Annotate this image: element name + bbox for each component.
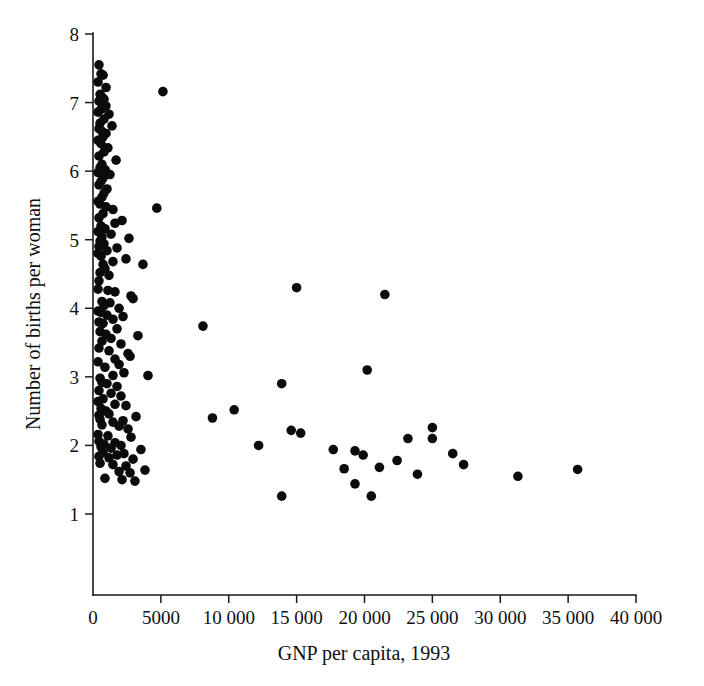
data-point <box>125 351 135 361</box>
data-point <box>118 312 128 322</box>
data-points-layer <box>93 60 582 501</box>
data-point <box>362 365 372 375</box>
data-point <box>124 234 134 244</box>
axis-lines <box>93 33 636 595</box>
data-point <box>104 271 114 281</box>
y-tick-label: 7 <box>70 93 80 114</box>
data-point <box>380 290 390 300</box>
y-axis-title: Number of births per woman <box>22 198 45 430</box>
y-tick-label: 1 <box>70 504 80 525</box>
data-point <box>94 386 104 396</box>
x-tick-label: 0 <box>88 607 98 628</box>
x-tick-label: 25 000 <box>406 607 458 628</box>
data-point <box>286 426 296 436</box>
x-tick-label: 40 000 <box>610 607 662 628</box>
data-point <box>392 456 402 466</box>
data-point <box>94 276 104 286</box>
data-point <box>116 339 126 349</box>
y-tick-label: 4 <box>70 298 80 319</box>
data-point <box>292 283 302 293</box>
data-point <box>119 368 129 378</box>
data-point <box>97 420 107 430</box>
data-point <box>112 324 122 334</box>
data-point <box>208 413 218 423</box>
data-point <box>123 424 133 434</box>
data-point <box>296 428 306 438</box>
data-point <box>104 409 114 419</box>
x-axis-title: GNP per capita, 1993 <box>278 642 451 665</box>
data-point <box>358 450 368 460</box>
data-point <box>229 405 239 415</box>
data-point <box>158 87 168 97</box>
data-point <box>277 379 287 389</box>
data-point <box>116 391 126 401</box>
data-point <box>130 476 140 486</box>
data-point <box>143 371 153 381</box>
y-axis-ticks: 12345678 <box>70 24 94 525</box>
data-point <box>573 465 583 475</box>
data-point <box>121 254 131 264</box>
data-point <box>350 479 360 489</box>
x-tick-label: 35 000 <box>542 607 594 628</box>
data-point <box>95 458 105 468</box>
data-point <box>428 434 438 444</box>
data-point <box>138 260 148 270</box>
y-tick-label: 3 <box>70 367 80 388</box>
data-point <box>133 331 143 341</box>
data-point <box>126 432 136 442</box>
x-axis-ticks: 0500010 00015 00020 00025 00030 00035 00… <box>88 595 662 628</box>
data-point <box>106 389 116 399</box>
y-tick-label: 6 <box>70 161 80 182</box>
data-point <box>106 229 116 239</box>
data-point <box>93 77 103 87</box>
data-point <box>513 471 523 481</box>
data-point <box>328 445 338 455</box>
data-point <box>110 218 120 228</box>
data-point <box>110 399 120 409</box>
x-tick-label: 5000 <box>142 607 180 628</box>
data-point <box>366 491 376 501</box>
chart-canvas: 12345678 0500010 00015 00020 00025 00030… <box>0 0 704 686</box>
data-point <box>93 284 103 294</box>
x-tick-label: 20 000 <box>338 607 390 628</box>
data-point <box>96 251 106 261</box>
data-point <box>100 362 110 372</box>
data-point <box>403 434 413 444</box>
y-tick-label: 2 <box>70 435 80 456</box>
data-point <box>94 60 104 70</box>
x-tick-label: 15 000 <box>271 607 323 628</box>
data-point <box>198 321 208 331</box>
data-point <box>108 205 118 215</box>
x-tick-label: 30 000 <box>474 607 526 628</box>
data-point <box>98 319 108 329</box>
x-tick-label: 10 000 <box>203 607 255 628</box>
data-point <box>104 346 114 356</box>
data-point <box>128 454 138 464</box>
data-point <box>117 475 127 485</box>
data-point <box>111 155 121 165</box>
data-point <box>114 421 124 431</box>
data-point <box>350 446 360 456</box>
data-point <box>108 314 118 324</box>
data-point <box>94 343 104 353</box>
data-point <box>428 423 438 433</box>
data-point <box>140 465 150 475</box>
data-point <box>106 334 116 344</box>
data-point <box>102 379 112 389</box>
data-point <box>116 441 126 451</box>
data-point <box>125 468 135 478</box>
data-point <box>100 474 110 484</box>
data-point <box>136 445 146 455</box>
data-point <box>254 441 264 451</box>
data-point <box>121 401 131 411</box>
data-point <box>277 491 287 501</box>
y-tick-label: 8 <box>70 24 80 45</box>
data-point <box>459 460 469 470</box>
scatter-plot-figure: 12345678 0500010 00015 00020 00025 00030… <box>0 0 704 686</box>
data-point <box>413 469 423 479</box>
data-point <box>114 467 124 477</box>
data-point <box>131 412 141 422</box>
data-point <box>108 371 118 381</box>
y-tick-label: 5 <box>70 230 80 251</box>
data-point <box>103 431 113 441</box>
